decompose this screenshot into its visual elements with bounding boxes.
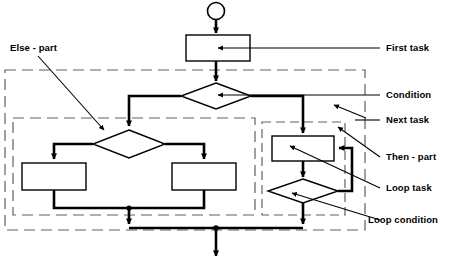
edge-else-right-merge [129, 190, 204, 208]
callout-then-part: Then - part [386, 151, 436, 162]
edge-else-left-merge [54, 190, 129, 208]
edge-condition-to-else [129, 96, 181, 126]
flowchart-canvas: Else - part First task Condition Next ta… [0, 0, 458, 265]
leader-loop-condition [292, 193, 380, 220]
node-condition-diamond [181, 83, 251, 109]
edge-inner-decision-to-left-task [54, 144, 93, 159]
callout-first-task: First task [386, 42, 429, 53]
node-else-task-left [22, 163, 86, 190]
flowchart-diagram [0, 0, 458, 265]
leader-else-part [38, 56, 104, 130]
node-loop-condition-diamond [268, 179, 338, 203]
initial-node-circle [208, 3, 225, 20]
leader-next-task-arrow [334, 105, 366, 118]
node-next-task-diamond [93, 130, 165, 158]
callout-next-task: Next task [386, 114, 429, 125]
node-loop-task [272, 136, 334, 161]
edge-condition-to-then [251, 96, 303, 133]
callout-loop-task: Loop task [386, 182, 432, 193]
node-else-task-right [172, 163, 236, 190]
leader-then-part [338, 127, 380, 157]
callout-else-part: Else - part [10, 42, 57, 53]
callout-condition: Condition [386, 89, 431, 100]
callout-loop-condition: Loop condition [368, 214, 438, 225]
edge-inner-decision-to-right-task [165, 144, 204, 159]
